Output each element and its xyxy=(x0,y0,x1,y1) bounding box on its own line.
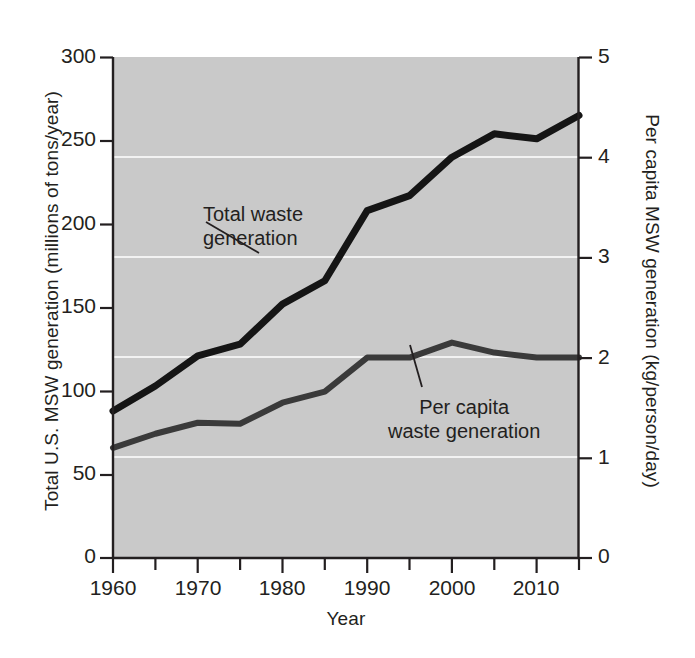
y-tick-left-300: 300 xyxy=(34,44,96,68)
x-tick-1970: 1970 xyxy=(153,576,243,600)
y-tick-left-250: 250 xyxy=(34,127,96,151)
y-tick-left-0: 0 xyxy=(34,544,96,568)
axis-frame xyxy=(0,0,695,658)
y-tick-right-4: 4 xyxy=(598,144,660,168)
y-tick-right-0: 0 xyxy=(598,544,660,568)
x-tick-2010: 2010 xyxy=(491,576,581,600)
y-tick-right-1: 1 xyxy=(598,445,660,469)
x-tick-1960: 1960 xyxy=(68,576,158,600)
y-tick-left-50: 50 xyxy=(34,461,96,485)
x-tick-2000: 2000 xyxy=(407,576,497,600)
y-tick-left-150: 150 xyxy=(34,294,96,318)
y-tick-right-3: 3 xyxy=(598,244,660,268)
x-tick-1990: 1990 xyxy=(322,576,412,600)
y-tick-left-200: 200 xyxy=(34,211,96,235)
annotation-total-waste: Total waste generation xyxy=(203,203,303,250)
chart-figure: Total U.S. MSW generation (millions of t… xyxy=(0,0,695,658)
annotation-per-capita: Per capita waste generation xyxy=(388,396,540,443)
x-tick-1980: 1980 xyxy=(237,576,327,600)
y-tick-right-5: 5 xyxy=(598,44,660,68)
y-tick-right-2: 2 xyxy=(598,345,660,369)
y-tick-left-100: 100 xyxy=(34,378,96,402)
